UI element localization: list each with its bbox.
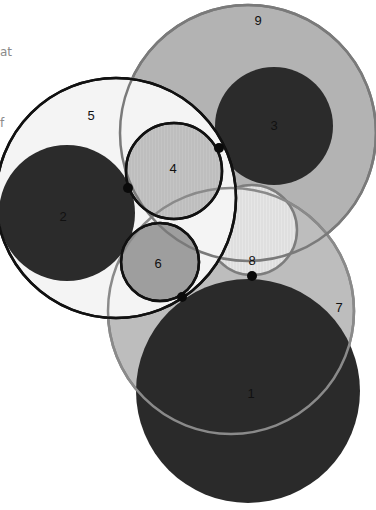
circle-label-3: 3 (270, 118, 277, 133)
tangent-point-dot (177, 292, 187, 302)
circle-label-2: 2 (59, 209, 66, 224)
circle-label-5: 5 (87, 108, 94, 123)
circle-label-8: 8 (248, 253, 255, 268)
circle-2 (0, 145, 135, 281)
circle-label-4: 4 (169, 161, 176, 176)
tangent-point-dot (123, 183, 133, 193)
circle-diagram: 937852461 (0, 0, 376, 510)
circle-label-9: 9 (254, 13, 261, 28)
tangent-point-dot (214, 143, 224, 153)
circles-layer (0, 5, 376, 503)
circle-label-6: 6 (154, 256, 161, 271)
circle-label-7: 7 (335, 300, 342, 315)
circle-label-1: 1 (247, 386, 254, 401)
tangent-point-dot (247, 271, 257, 281)
